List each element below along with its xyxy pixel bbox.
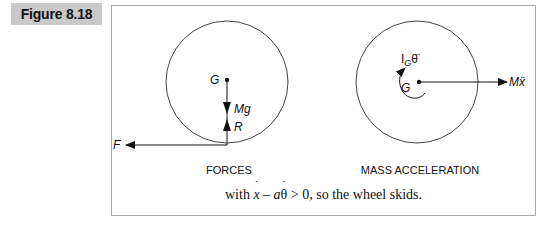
center-label-g: G [210,73,219,87]
figure-caption: with x – aθ > 0, so the wheel skids. [111,187,536,203]
r-label: R [234,120,243,134]
mg-label: Mg [234,102,251,116]
f-label: F [113,138,121,152]
forces-title: FORCES [206,164,252,176]
mass-acceleration-title: MASS ACCELERATION [361,164,479,176]
center-label-g-2: G [401,81,410,95]
mass-acceleration-panel: G Mẍ IGθ̈ MASS ACCELERATION [356,21,526,176]
r-arrow-icon [223,119,231,131]
mx-label: Mẍ [509,75,526,89]
mg-arrow-icon [223,102,231,114]
forces-panel: G Mg R F FORCES [113,21,288,176]
moment-label: IGθ̈ [401,52,420,68]
